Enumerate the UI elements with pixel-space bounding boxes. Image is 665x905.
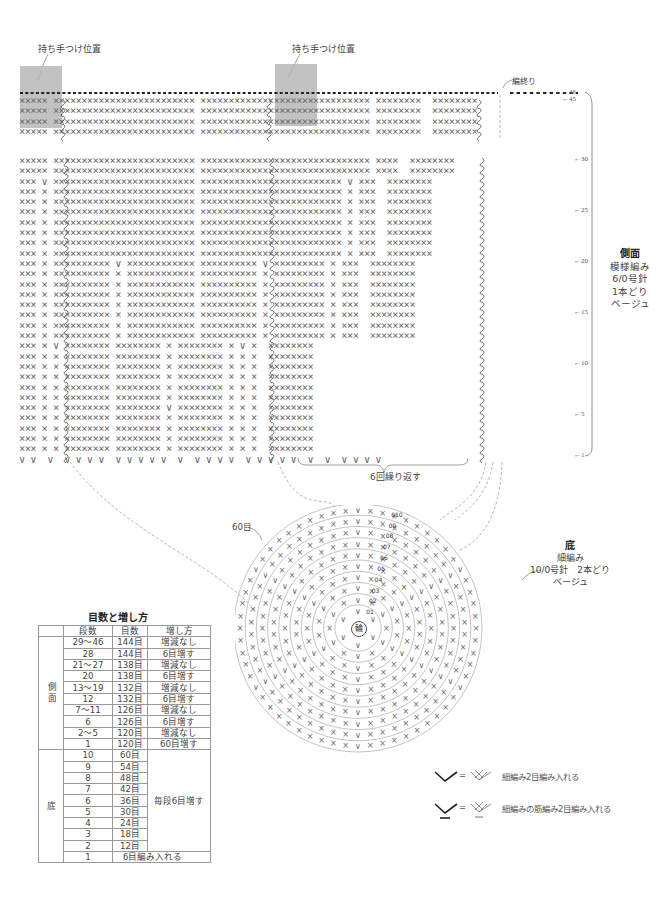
svg-text:×: × xyxy=(342,575,349,584)
svg-text:×: × xyxy=(279,682,286,691)
svg-text:×: × xyxy=(367,552,374,561)
svg-text:×: × xyxy=(318,736,325,745)
svg-text:∨: ∨ xyxy=(301,655,307,664)
svg-text:∨: ∨ xyxy=(457,683,463,692)
cell-rows: 5 xyxy=(64,806,113,817)
svg-text:∨: ∨ xyxy=(399,599,405,608)
cell-count: 132目 xyxy=(113,682,148,693)
svg-text:×: × xyxy=(424,529,431,538)
svg-text:×: × xyxy=(296,605,303,614)
cell-count: 30目 xyxy=(113,806,148,817)
svg-text:×: × xyxy=(237,636,244,645)
svg-text:×: × xyxy=(403,732,410,741)
svg-text:×: × xyxy=(423,599,430,608)
svg-text:×: × xyxy=(259,693,266,702)
svg-text:∨: ∨ xyxy=(389,644,395,653)
svg-text:×: × xyxy=(342,707,349,716)
svg-text:×: × xyxy=(472,636,479,645)
svg-text:×: × xyxy=(318,700,325,709)
svg-text:∨: ∨ xyxy=(355,664,361,673)
svg-text:×: × xyxy=(340,599,347,608)
svg-text:×: × xyxy=(379,739,386,748)
svg-text:×: × xyxy=(260,636,267,645)
svg-text:×: × xyxy=(308,568,315,577)
svg-text:∨: ∨ xyxy=(355,731,361,740)
svg-text:×: × xyxy=(330,739,337,748)
svg-text:×: × xyxy=(443,587,450,596)
svg-text:×: × xyxy=(462,576,469,585)
svg-text:×: × xyxy=(307,719,314,728)
svg-text:×: × xyxy=(367,541,374,550)
cell-method: 60目増す xyxy=(148,738,211,749)
cell-rows: 1 xyxy=(64,851,113,862)
table-row: 28144目6目増す xyxy=(39,648,211,659)
svg-text:∨: ∨ xyxy=(355,540,361,549)
svg-text:×: × xyxy=(276,712,283,721)
svg-text:∨: ∨ xyxy=(428,666,434,675)
svg-text:×: × xyxy=(411,577,418,586)
svg-text:×: × xyxy=(342,696,349,705)
table-title: 目数と増し方 xyxy=(88,609,148,624)
svg-text:×: × xyxy=(329,654,336,663)
svg-text:×: × xyxy=(453,666,460,675)
svg-text:×: × xyxy=(266,661,273,670)
svg-text:×: × xyxy=(413,700,420,709)
svg-text:×: × xyxy=(342,552,349,561)
cell-rows: 7 xyxy=(64,784,113,795)
cell-method: 増減なし xyxy=(148,637,211,648)
svg-text:∨: ∨ xyxy=(355,742,361,751)
center-ring: 輪 xyxy=(351,621,367,637)
cell-first-round: 6目編み入れる xyxy=(113,851,211,862)
svg-text:×: × xyxy=(380,654,387,663)
svg-text:∨: ∨ xyxy=(389,604,395,613)
svg-text:×: × xyxy=(296,548,303,557)
svg-text:×: × xyxy=(330,509,337,518)
svg-text:×: × xyxy=(380,668,387,677)
svg-text:×: × xyxy=(318,724,325,733)
cell-rows: 13～19 xyxy=(64,682,113,693)
svg-text:∨: ∨ xyxy=(340,615,346,624)
svg-text:∨: ∨ xyxy=(355,708,361,717)
cell-count: 42目 xyxy=(113,784,148,795)
svg-text:∨: ∨ xyxy=(355,720,361,729)
table-row: 21～27138目増減なし xyxy=(39,659,211,670)
svg-text:×: × xyxy=(421,571,428,580)
svg-text:×: × xyxy=(318,548,325,557)
svg-text:×: × xyxy=(432,551,439,560)
svg-text:×: × xyxy=(342,541,349,550)
svg-text:×: × xyxy=(342,563,349,572)
cell-method: 増減なし xyxy=(148,705,211,716)
side-strands: 1本どり xyxy=(595,286,665,299)
svg-text:×: × xyxy=(329,580,336,589)
svg-text:×: × xyxy=(267,545,274,554)
svg-text:×: × xyxy=(367,529,374,538)
svg-text:×: × xyxy=(470,599,477,608)
svg-text:×: × xyxy=(306,611,313,620)
svg-text:×: × xyxy=(318,536,325,545)
side-info: 側面 模様編み 6/0号針 1本どり ベージュ xyxy=(595,248,665,311)
svg-text:×: × xyxy=(299,671,306,680)
svg-text:×: × xyxy=(440,560,447,569)
svg-text:×: × xyxy=(237,612,244,621)
svg-text:×: × xyxy=(442,545,449,554)
svg-text:∨: ∨ xyxy=(355,607,361,616)
svg-text:×: × xyxy=(262,649,269,658)
svg-text:×: × xyxy=(267,703,274,712)
svg-text:×: × xyxy=(439,618,446,627)
svg-text:×: × xyxy=(380,681,387,690)
svg-text:×: × xyxy=(428,624,435,633)
svg-text:×: × xyxy=(272,605,279,614)
svg-text:∨: ∨ xyxy=(272,576,278,585)
cell-count: 18目 xyxy=(113,829,148,840)
svg-text:×: × xyxy=(402,694,409,703)
svg-text:×: × xyxy=(383,624,390,633)
svg-text:×: × xyxy=(423,649,430,658)
svg-text:∨: ∨ xyxy=(355,584,361,593)
cell-count: 126目 xyxy=(113,705,148,716)
cell-count: 48目 xyxy=(113,772,148,783)
svg-text:×: × xyxy=(403,529,410,538)
cell-rows: 6 xyxy=(64,795,113,806)
svg-text:∨: ∨ xyxy=(282,582,288,591)
svg-text:×: × xyxy=(330,705,337,714)
group-bottom: 底 xyxy=(39,750,64,863)
